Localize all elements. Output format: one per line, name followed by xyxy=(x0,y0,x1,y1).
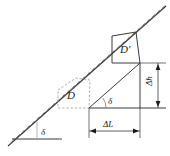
delta-h-label: Δh xyxy=(144,76,154,87)
delta-angle-apex-arc xyxy=(103,98,106,108)
delta-angle-apex-label: δ xyxy=(108,96,113,106)
hatched-slope-line xyxy=(8,6,166,146)
displacement-triangle xyxy=(89,63,166,108)
delta-angle-lower-left-label: δ xyxy=(41,127,46,137)
displaced-block-label: D′ xyxy=(119,43,131,55)
delta-l-label: ΔL xyxy=(102,119,113,129)
delta-l-dimension xyxy=(89,108,140,138)
original-block-label: D xyxy=(66,89,75,101)
diagram-canvas: δ D D′ δ Δh ΔL xyxy=(0,0,170,156)
